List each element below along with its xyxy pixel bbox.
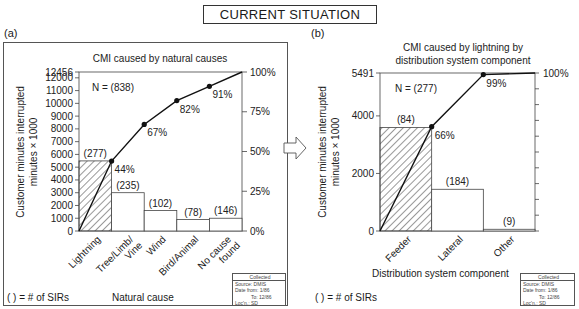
- chart-b-n-annotation: N = (277): [395, 83, 437, 94]
- svg-text:10000: 10000: [45, 98, 73, 109]
- svg-text:(235): (235): [116, 180, 139, 191]
- chart-a-ylabel-line2: minutes × 1000: [28, 117, 39, 186]
- panel-b-footnote: ( ) = # of SIRs: [315, 292, 377, 303]
- svg-text:75%: 75%: [250, 106, 270, 117]
- svg-text:5491: 5491: [352, 68, 375, 79]
- panel-b-label: (b): [311, 27, 324, 39]
- panel-a-footnote: ( ) = # of SIRs: [7, 292, 69, 303]
- svg-text:0: 0: [368, 226, 374, 237]
- chart-b-bars: (84)(184)(9): [380, 114, 535, 231]
- svg-text:67%: 67%: [147, 127, 167, 138]
- chart-a-bars: (277)(235)(102)(78)(146): [79, 148, 242, 231]
- chart-b-title-line1: CMI caused by lightning by: [403, 42, 523, 53]
- svg-text:3000: 3000: [51, 187, 74, 198]
- svg-text:66%: 66%: [435, 130, 455, 141]
- svg-text:(146): (146): [214, 205, 237, 216]
- panel-a-source-box: Collected Source: DMIS Date from: 1/86 T…: [232, 273, 286, 306]
- svg-text:9000: 9000: [51, 111, 74, 122]
- svg-text:4000: 4000: [352, 110, 375, 121]
- svg-text:Wind: Wind: [144, 234, 168, 258]
- svg-text:99%: 99%: [486, 78, 506, 89]
- svg-text:100%: 100%: [250, 67, 276, 78]
- source-line: Loc'n.: SD: [521, 300, 574, 306]
- chart-b-ylabel-line1: Customer minutes interrupted: [317, 86, 328, 218]
- right-arrow-icon: [284, 137, 306, 159]
- svg-text:(184): (184): [446, 176, 469, 187]
- chart-b-ylabel-line2: minutes × 1000: [330, 117, 341, 186]
- source-line: Loc'n.: SD: [233, 300, 285, 306]
- svg-text:0: 0: [67, 226, 73, 237]
- svg-text:1000: 1000: [51, 213, 74, 224]
- svg-text:(78): (78): [184, 207, 202, 218]
- svg-text:8000: 8000: [51, 123, 74, 134]
- charts-svg: CMI caused by natural causes 01000200030…: [0, 0, 579, 309]
- svg-text:7000: 7000: [51, 136, 74, 147]
- svg-text:Feeder: Feeder: [383, 233, 414, 264]
- svg-text:11000: 11000: [46, 85, 74, 96]
- svg-text:0%: 0%: [250, 226, 265, 237]
- svg-text:82%: 82%: [180, 104, 200, 115]
- chart-a: CMI caused by natural causes 01000200030…: [15, 53, 276, 278]
- source-box-header: Collected: [233, 274, 285, 281]
- svg-text:44%: 44%: [115, 164, 135, 175]
- svg-text:50%: 50%: [250, 146, 270, 157]
- svg-text:5000: 5000: [51, 162, 74, 173]
- panel-b-xlabel: Distribution system component: [372, 268, 509, 279]
- panel-b-source-box: Collected Source: DMIS Date from: 1/86 T…: [520, 273, 575, 306]
- svg-text:(9): (9): [503, 216, 515, 227]
- chart-a-title: CMI caused by natural causes: [93, 53, 228, 64]
- svg-text:(84): (84): [397, 114, 415, 125]
- svg-text:25%: 25%: [250, 186, 270, 197]
- svg-text:2000: 2000: [352, 168, 375, 179]
- svg-text:6000: 6000: [51, 149, 74, 160]
- panel-a-xlabel: Natural cause: [112, 292, 174, 303]
- chart-a-n-annotation: N = (838): [92, 82, 134, 93]
- svg-text:91%: 91%: [212, 89, 232, 100]
- svg-text:100%: 100%: [543, 68, 569, 79]
- chart-a-y2-axis: 0%25%50%75%100%: [242, 67, 276, 237]
- svg-text:Lateral: Lateral: [436, 234, 465, 263]
- chart-b: CMI caused by lightning by distribution …: [317, 42, 569, 264]
- chart-b-title-line2: distribution system component: [395, 55, 530, 66]
- svg-text:(102): (102): [149, 198, 172, 209]
- svg-text:2000: 2000: [51, 200, 74, 211]
- source-box-header: Collected: [521, 274, 574, 281]
- chart-b-y-axis: 0200040005491: [352, 68, 380, 237]
- chart-a-ylabel-line1: Customer minutes interrupted: [15, 86, 26, 218]
- svg-text:12456: 12456: [45, 67, 73, 78]
- svg-text:Other: Other: [491, 233, 517, 259]
- svg-text:4000: 4000: [51, 174, 74, 185]
- chart-a-y-axis: 0100020003000400050006000700080009000100…: [45, 67, 79, 237]
- svg-text:(277): (277): [84, 148, 107, 159]
- chart-b-x-labels: FeederLateralOther: [383, 233, 517, 264]
- chart-b-y2-axis: 100%: [535, 68, 569, 232]
- chart-a-x-labels: LightningTree/Limb/VineWindBird/AnimalNo…: [66, 233, 242, 277]
